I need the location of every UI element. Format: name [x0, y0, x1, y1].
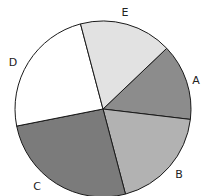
slice-label-d: D: [9, 56, 17, 69]
pie-slices: [15, 21, 191, 196]
slice-label-b: B: [175, 168, 183, 181]
slice-label-a: A: [192, 74, 200, 87]
pie-chart: ABCDE: [0, 0, 201, 196]
slice-label-e: E: [122, 6, 129, 19]
slice-label-c: C: [33, 180, 41, 193]
